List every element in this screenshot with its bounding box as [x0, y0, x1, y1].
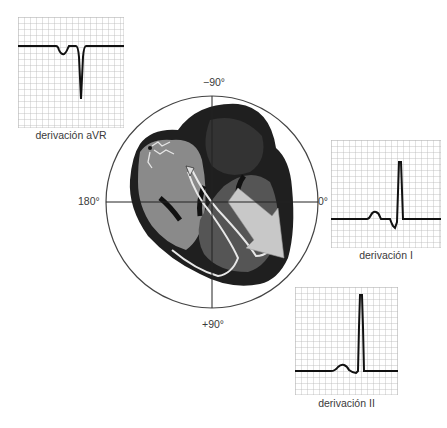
ecg-grid-i [331, 140, 441, 248]
axis-label-plus-90: +90° [202, 318, 224, 330]
ecg-lead-i [331, 140, 441, 248]
lead-label-ii: derivación II [295, 397, 398, 409]
ecg-lead-ii [295, 287, 398, 395]
axis-label-0: 0° [318, 195, 328, 207]
axis-label-180: 180° [78, 195, 100, 207]
axis-label-minus-90: −90° [203, 76, 225, 88]
axis-diagram [100, 90, 326, 316]
ecg-grid-ii [295, 287, 398, 395]
lead-label-i: derivación I [331, 249, 441, 261]
